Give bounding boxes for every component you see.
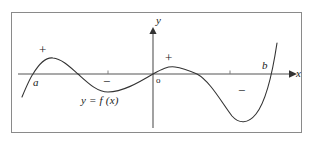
origin-label: o: [156, 76, 161, 85]
sign-minus-region-1: −: [103, 75, 110, 88]
sign-plus-region-1: +: [39, 43, 46, 56]
sign-plus-region-2: +: [165, 51, 172, 64]
y-axis-label: y: [156, 15, 161, 26]
point-label-a: a: [33, 77, 39, 88]
function-equation-label: y = f (x): [81, 95, 119, 106]
sign-minus-region-2: −: [238, 84, 245, 97]
point-label-b: b: [262, 60, 268, 71]
figure-container: y x o a b y = f (x) + − + −: [0, 0, 314, 145]
x-axis-label: x: [296, 68, 301, 79]
